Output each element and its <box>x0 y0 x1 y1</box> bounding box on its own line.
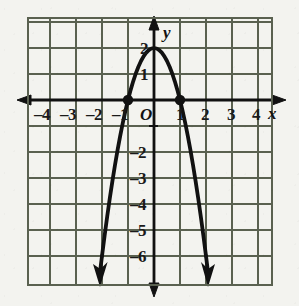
point-x-intercept-positive-one <box>175 95 185 105</box>
y-tick-label-2: 2 <box>140 40 148 57</box>
y-tick-label-1: 1 <box>140 66 148 83</box>
origin-label: O <box>140 106 152 123</box>
coordinate-plane-svg <box>0 0 299 306</box>
parabola-right-tail <box>206 256 208 268</box>
parabola-left-tail <box>101 256 103 268</box>
x-tick-label-4: 4 <box>252 106 260 123</box>
y-axis-label: y <box>163 24 171 41</box>
x-axis-left-arrowhead <box>17 95 31 105</box>
y-tick-label--4: –4 <box>130 196 146 213</box>
x-tick-label--4: –4 <box>34 106 50 123</box>
x-tick-label-3: 3 <box>227 106 235 123</box>
axis-lines <box>17 16 286 297</box>
graph-figure: –4 –3 –2 –1 1 2 3 4 2 1 –2 –3 –4 –5 –6 O… <box>0 0 299 306</box>
x-axis-label: x <box>268 105 277 122</box>
x-tick-label--1: –1 <box>112 106 128 123</box>
y-tick-label--6: –6 <box>130 248 146 265</box>
point-x-intercept-negative-one <box>123 95 133 105</box>
x-tick-label--2: –2 <box>86 106 102 123</box>
x-tick-label-2: 2 <box>201 106 209 123</box>
grid-lines <box>28 18 272 285</box>
y-tick-label--5: –5 <box>130 222 146 239</box>
x-tick-label-1: 1 <box>176 106 184 123</box>
y-tick-label--3: –3 <box>130 170 146 187</box>
x-tick-label--3: –3 <box>60 106 76 123</box>
y-tick-label--2: –2 <box>130 144 146 161</box>
